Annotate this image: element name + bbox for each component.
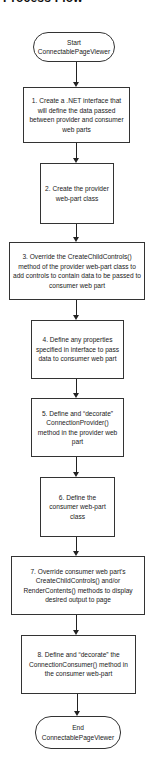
step-6-label: 6. Define the consumer web-part class: [44, 493, 111, 522]
step-4-box: 4. Define any properties specified in in…: [31, 320, 124, 379]
diagram-title: Process Flow: [3, 0, 83, 5]
step-5-label: 5. Define and “decorate” ConnectionProvi…: [35, 409, 120, 447]
step-3-label: 3. Override the CreateChildControls() me…: [13, 252, 141, 290]
step-4-label: 4. Define any properties specified in in…: [35, 335, 120, 364]
step-8-label: 8. Define and “decorate” the ConnectionC…: [25, 650, 132, 679]
start-node: Start ConnectablePageViewer: [33, 32, 115, 62]
step-1-box: 1. Create a .NET interface that will def…: [23, 87, 130, 143]
connector-8-end: [77, 694, 78, 711]
connector-1-2: [76, 143, 77, 158]
step-7-box: 7. Override consumer web part's CreateCh…: [11, 556, 145, 615]
end-node: End ConnectablePageViewer: [35, 716, 121, 749]
connector-3-4: [76, 300, 77, 315]
step-2-label: 2. Create the provider web-part class: [44, 184, 110, 203]
step-5-box: 5. Define and “decorate” ConnectionProvi…: [31, 398, 124, 457]
connector-7-8: [76, 615, 77, 630]
step-8-box: 8. Define and “decorate” the ConnectionC…: [21, 635, 136, 694]
connector-5-6: [76, 457, 77, 472]
step-7-label: 7. Override consumer web part's CreateCh…: [15, 567, 141, 605]
start-node-label: Start ConnectablePageViewer: [37, 38, 111, 57]
step-3-box: 3. Override the CreateChildControls() me…: [9, 242, 145, 300]
end-node-label: End ConnectablePageViewer: [39, 723, 117, 742]
connector-2-3: [76, 224, 77, 237]
step-2-box: 2. Create the provider web-part class: [40, 163, 114, 224]
step-6-box: 6. Define the consumer web-part class: [40, 477, 115, 537]
connector-6-7: [76, 537, 77, 551]
connector-4-5: [76, 379, 77, 393]
step-1-label: 1. Create a .NET interface that will def…: [27, 96, 126, 134]
connector-start-1: [76, 62, 77, 82]
